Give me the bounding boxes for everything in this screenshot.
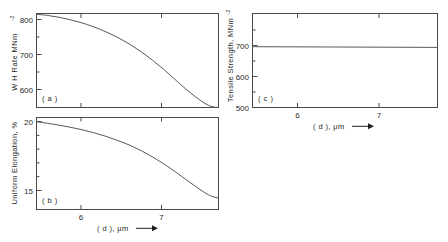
panel-c: 700 600 500 6 7 Tensile Strength, MNm -2…	[225, 9, 438, 131]
panel-b-ylabel: Uniform Elongation, %	[10, 121, 19, 204]
panel-c-xlabel: ( d ), μm	[313, 122, 345, 131]
panel-a-ylabel-exponent: -2	[9, 15, 15, 21]
panel-a-curve	[37, 14, 218, 107]
panel-b-tag: ( b )	[42, 196, 58, 205]
panel-b-curve	[37, 122, 218, 198]
panel-c-tag: ( c )	[258, 94, 273, 103]
panel-b-yticklabel-20: 20	[24, 118, 33, 127]
panel-b-xticklabel-6: 6	[79, 213, 84, 222]
panel-a-tag: ( a )	[42, 94, 58, 103]
panel-b-plot-frame	[37, 118, 219, 210]
panel-c-ylabel: Tensile Strength, MNm	[226, 18, 235, 102]
panel-b: 20 15 6 7 Uniform Elongation, % ( b ) ( …	[10, 118, 219, 234]
panel-c-yticklabel-600: 600	[236, 73, 250, 82]
figure-container: 800 700 600 W H Rate MNm -2 ( a )	[0, 0, 448, 242]
panel-c-yticklabel-500: 500	[236, 104, 250, 113]
panel-a-yticklabel-600: 600	[20, 86, 34, 95]
panel-a-ylabel: W H Rate MNm	[10, 33, 19, 90]
panel-b-xlabel: ( d ), μm	[97, 224, 129, 233]
panel-c-plot-frame	[253, 14, 438, 108]
panel-a-yticklabel-700: 700	[20, 51, 34, 60]
panel-c-xlabel-arrow-head	[368, 123, 374, 129]
panel-a: 800 700 600 W H Rate MNm -2 ( a )	[9, 14, 219, 108]
panel-b-xticklabel-7: 7	[159, 213, 164, 222]
panel-b-xlabel-arrow-head	[152, 225, 158, 231]
panel-c-xticklabel-7: 7	[377, 111, 382, 120]
panel-a-yticklabel-800: 800	[20, 16, 34, 25]
panel-c-xticklabel-6: 6	[295, 111, 300, 120]
panel-c-curve	[253, 47, 437, 48]
panel-c-ylabel-exponent: -2	[225, 9, 231, 15]
panel-c-yticklabel-700: 700	[236, 42, 250, 51]
panel-b-yticklabel-15: 15	[24, 187, 33, 196]
